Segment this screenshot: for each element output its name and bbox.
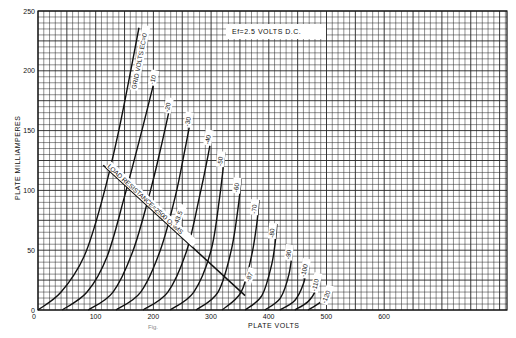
y-tick-label: 200 [23, 67, 35, 74]
grid-voltage-label: -50 [216, 156, 224, 167]
y-tick-label: 150 [23, 127, 35, 134]
filament-annotation: Ef=2.5 VOLTS D.C. [232, 28, 301, 35]
x-tick-label: 600 [378, 313, 390, 320]
x-axis-label: PLATE VOLTS [248, 322, 300, 329]
filament-annotation-box: Ef=2.5 VOLTS D.C. [226, 24, 326, 39]
y-axis-label: PLATE MILLIAMPERES [14, 116, 21, 200]
plate-curve [38, 28, 139, 310]
grid-voltage-label: -80 [268, 228, 276, 238]
grid-voltage-label: -90 [284, 249, 292, 260]
figure-caption: Fig. [148, 324, 158, 330]
curve-family [38, 28, 329, 310]
grid-voltage-label: -60 [232, 182, 240, 192]
y-tick-label: 50 [27, 247, 35, 254]
x-tick-label: 200 [147, 313, 159, 320]
plate-curve [222, 200, 259, 310]
y-tick-label: 100 [23, 187, 35, 194]
plate-characteristics-chart: 0100200300400500600050100150200250 LOAD … [0, 0, 516, 338]
x-tick-label: 100 [90, 313, 102, 320]
x-tick-label: 0 [32, 313, 36, 320]
x-tick-label: 300 [205, 313, 217, 320]
grid [38, 11, 507, 310]
x-tick-label: 400 [263, 313, 275, 320]
grid-voltage-label: -70 [250, 204, 258, 214]
x-tick-label: 500 [321, 313, 333, 320]
y-tick-label: 250 [23, 8, 35, 15]
y-tick-label: 0 [31, 307, 35, 314]
curve-labels: GRID VOLTS EC=0-10-20-30-40-50-60-70-80-… [130, 25, 335, 306]
